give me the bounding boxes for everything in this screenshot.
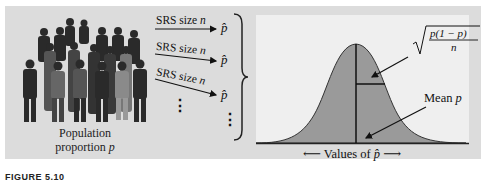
p-hat-3: p̂: [221, 87, 228, 103]
sd-numerator: p(1 − p): [430, 27, 467, 39]
mean-symbol: p: [456, 91, 462, 105]
p-hat-1: p̂: [221, 20, 228, 36]
p-hat-2: p̂: [221, 52, 228, 68]
left-arrow-icon: ⟵: [303, 147, 324, 161]
mean-label: Mean p: [424, 91, 462, 106]
ellipsis-left: ⋮: [172, 96, 188, 115]
curly-brace: [232, 12, 250, 142]
x-axis-label: ⟵ Values of p̂ ⟶: [303, 146, 401, 162]
figure-label: FIGURE 5.10: [5, 172, 65, 182]
sd-denominator: n: [451, 41, 457, 53]
right-arrow-icon: ⟶: [380, 147, 401, 161]
sample-label-1: SRS size n: [156, 14, 206, 26]
